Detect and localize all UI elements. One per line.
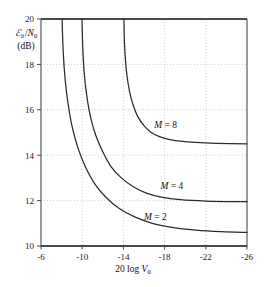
y-tick-label: 20 bbox=[25, 14, 35, 24]
curve-label-value: 8 bbox=[172, 120, 177, 130]
y-axis-title: ℰb /N0 (dB) bbox=[4, 27, 48, 52]
x-tick-label: -6 bbox=[37, 252, 45, 262]
x-axis-title: 20 log V0 bbox=[0, 264, 266, 275]
curve-label-M-4: M = 4 bbox=[160, 181, 183, 191]
x-axis-variable-sub: 0 bbox=[147, 268, 150, 275]
curve-label-M-2: M = 2 bbox=[144, 212, 167, 222]
curve-label-M-8: M = 8 bbox=[154, 120, 177, 130]
curve-label-equals: = bbox=[162, 120, 172, 130]
y-tick-label: 10 bbox=[25, 241, 35, 251]
y-tick-label: 16 bbox=[25, 105, 35, 115]
curve-label-value: 4 bbox=[179, 181, 184, 191]
curve-label-equals: = bbox=[168, 181, 178, 191]
y-axis-sub-zero: 0 bbox=[34, 32, 37, 39]
x-tick-label: -14 bbox=[117, 252, 129, 262]
y-axis-title-line2: (dB) bbox=[4, 41, 48, 52]
chart-figure: -6-10-14-18-22-26 201816141210 ℰb /N0 (d… bbox=[0, 0, 266, 287]
curve-label-equals: = bbox=[152, 212, 162, 222]
curve-label-variable: M bbox=[144, 212, 152, 222]
y-tick-label: 12 bbox=[25, 196, 34, 206]
curve-label-value: 2 bbox=[162, 212, 167, 222]
x-tick-label: -22 bbox=[200, 252, 212, 262]
x-tick-label: -26 bbox=[241, 252, 253, 262]
y-tick-label: 14 bbox=[25, 151, 35, 161]
x-tick-label: -10 bbox=[76, 252, 88, 262]
x-axis-title-prefix: 20 log bbox=[115, 264, 141, 274]
x-tick-label: -18 bbox=[159, 252, 171, 262]
y-axis-title-line1: ℰb /N0 bbox=[4, 27, 48, 41]
y-tick-label: 18 bbox=[25, 60, 35, 70]
